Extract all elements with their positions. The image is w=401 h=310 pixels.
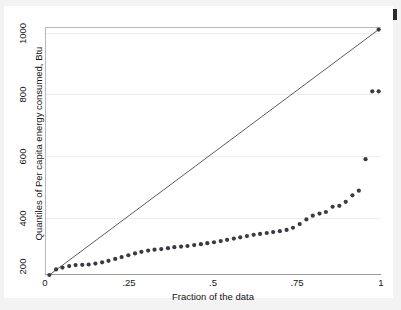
x-tick-label-100: 1 xyxy=(366,277,396,288)
screenshot-root: Quantiles of Per capita energy consumed,… xyxy=(0,0,401,310)
graph-card: Quantiles of Per capita energy consumed,… xyxy=(4,6,393,298)
data-point xyxy=(159,247,163,251)
data-point xyxy=(258,232,262,236)
y-tick-label-400: 400 xyxy=(6,213,40,224)
data-point xyxy=(284,228,288,232)
reference-line xyxy=(49,30,378,275)
data-point xyxy=(120,255,124,259)
y-tick-label-1000: 1000 xyxy=(6,28,40,39)
data-point xyxy=(357,189,361,193)
data-point xyxy=(298,222,302,226)
plot-area xyxy=(45,27,381,274)
y-tick-label-800: 800 xyxy=(6,89,40,100)
data-point xyxy=(106,259,110,263)
data-point xyxy=(245,234,249,238)
data-point xyxy=(212,240,216,244)
data-point xyxy=(67,264,71,268)
data-point xyxy=(80,263,84,267)
data-point xyxy=(317,211,321,215)
y-tick-label-600: 600 xyxy=(6,151,40,162)
data-point xyxy=(185,244,189,248)
data-point xyxy=(370,89,374,93)
data-point xyxy=(126,253,130,257)
x-tick-label-0: 0 xyxy=(30,277,60,288)
data-point xyxy=(337,204,341,208)
x-tick-label-75: .75 xyxy=(282,277,312,288)
data-point xyxy=(205,241,209,245)
data-point xyxy=(113,257,117,261)
data-point xyxy=(139,250,143,254)
data-point xyxy=(291,226,295,230)
data-point xyxy=(199,242,203,246)
data-point xyxy=(304,217,308,221)
data-point xyxy=(278,229,282,233)
data-point xyxy=(324,210,328,214)
data-point xyxy=(252,233,256,237)
data-point xyxy=(377,89,381,93)
data-point xyxy=(271,230,275,234)
data-point xyxy=(93,261,97,265)
data-point xyxy=(133,251,137,255)
x-axis-title: Fraction of the data xyxy=(45,291,381,302)
data-point xyxy=(166,246,170,250)
data-point xyxy=(60,265,64,269)
data-point xyxy=(179,244,183,248)
y-axis-title: Quantiles of Per capita energy consumed,… xyxy=(33,26,44,262)
data-point xyxy=(100,260,104,264)
data-point xyxy=(225,238,229,242)
data-point xyxy=(363,157,367,161)
plot-canvas xyxy=(46,28,382,275)
data-point xyxy=(232,236,236,240)
x-tick-label-25: .25 xyxy=(114,277,144,288)
data-point xyxy=(265,231,269,235)
data-point xyxy=(331,205,335,209)
data-point xyxy=(152,248,156,252)
data-point xyxy=(146,249,150,253)
data-point xyxy=(192,243,196,247)
data-point xyxy=(311,214,315,218)
data-point xyxy=(54,267,58,271)
data-point xyxy=(350,193,354,197)
data-point xyxy=(344,200,348,204)
x-tick-label-50: .5 xyxy=(198,277,228,288)
data-point xyxy=(238,235,242,239)
data-point xyxy=(87,262,91,266)
y-tick-label-200: 200 xyxy=(6,261,40,272)
edge-artifact-mark xyxy=(393,9,397,20)
data-point xyxy=(73,263,77,267)
data-point-max xyxy=(377,27,381,31)
data-point xyxy=(172,245,176,249)
data-point xyxy=(219,239,223,243)
